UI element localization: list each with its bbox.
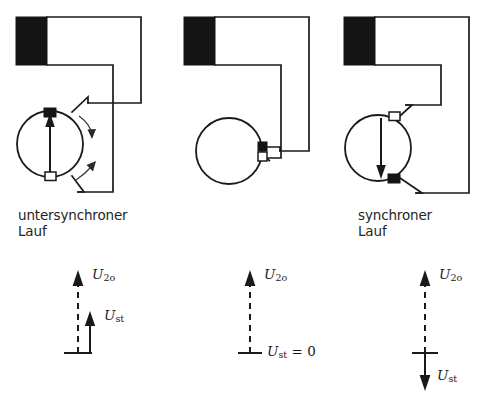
rotation-arrow-lower [76,166,92,180]
u20-arrowhead [245,270,256,286]
rotor-circle [196,118,262,184]
lead-top-brush [72,97,88,112]
ust-label-undersynchronous: Ust [104,307,124,324]
u20-label-undersynchronous: U2o [92,266,115,283]
phasor-diagram-synchronous [170,255,340,414]
phasor-panel-synchronous: U2o Ust = 0 [170,255,340,414]
phasor-diagram-oversynchronous [334,255,504,414]
supply-inner-loop [375,65,441,105]
brush-bottom-open [45,172,56,181]
rotor-arrow-up [45,113,55,176]
u20-arrowhead [73,270,84,286]
brush-top-filled [44,108,56,117]
rotation-arrowhead-upper [88,129,97,139]
circuit-panel-oversynchronous: übersynchroner Lauf [334,0,504,260]
circuit-panel-synchronous: synchroner Lauf [170,0,340,260]
caption-undersynchronous: untersynchroner Lauf [18,207,128,240]
supply-outer-loop [215,17,309,151]
phasor-panel-undersynchronous: U2o Ust [0,255,170,414]
brush-bottom-open [258,152,267,161]
brush-top-filled [258,142,267,151]
ust-label-oversynchronous: Ust [437,367,457,384]
circuit-panel-undersynchronous: untersynchroner Lauf [0,0,170,260]
source-block [344,17,375,65]
u20-label-synchronous: U2o [264,266,287,283]
brush-top-open [389,112,400,121]
circuit-diagram-oversynchronous [334,0,504,210]
figure-root: untersynchroner Lauf synchroner Lauf [0,0,504,414]
supply-outer-loop [47,17,141,103]
u20-arrowhead [420,270,431,286]
ust-label-synchronous: Ust = 0 [267,343,316,360]
ust-arrowhead [420,375,431,391]
u20-label-oversynchronous: U2o [439,266,462,283]
supply-inner-loop [215,65,281,158]
lead-bottom-brush [400,178,422,193]
lead-top-brush [400,105,412,116]
circuit-diagram-undersynchronous [0,0,170,210]
rotor-arrow-down [376,118,386,179]
phasor-panel-oversynchronous: U2o Ust [334,255,504,414]
source-block [16,17,47,65]
ust-arrowhead [85,311,95,326]
brush-bottom-filled [388,174,400,183]
circuit-diagram-synchronous [170,0,340,210]
phasor-diagram-undersynchronous [0,255,170,414]
source-block [184,17,215,65]
rotor-circle [345,115,411,181]
